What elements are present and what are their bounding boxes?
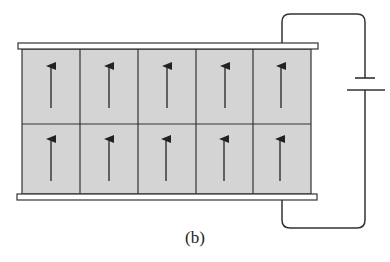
capacitor-diagram (0, 0, 390, 262)
bottom-plate (17, 194, 317, 200)
battery-icon (347, 78, 385, 90)
figure-caption: (b) (0, 228, 390, 248)
top-plate (18, 43, 318, 49)
